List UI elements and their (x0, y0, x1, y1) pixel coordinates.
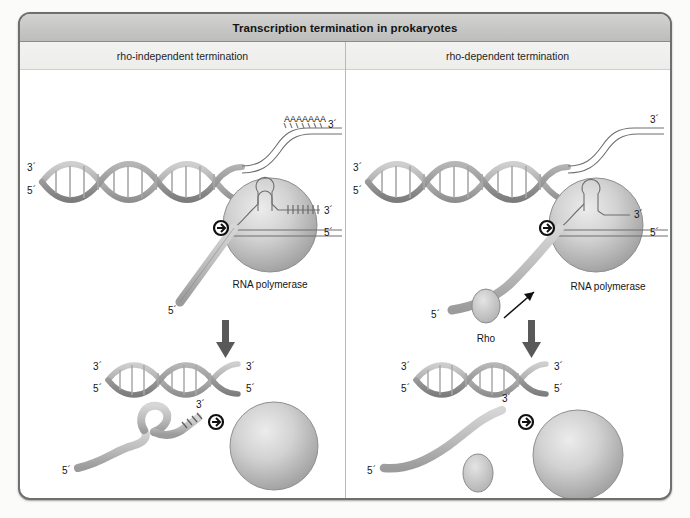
diagram-rho-dependent: 3´ 5´ 3´ (346, 70, 671, 500)
transcription-direction-icon-bottom (209, 415, 223, 429)
dna-duplex-top (42, 164, 242, 201)
hairpin-3prime-label-top-r: 3´ (634, 209, 643, 220)
panel-rho-independent: 3´ 5´ AAAAAAA 3´ (20, 70, 345, 500)
hairpin-3prime-label-top: 3´ (324, 205, 333, 216)
dna-bottom-5prime-right-r: 5´ (554, 383, 563, 394)
rho-translocation-arrow (504, 292, 534, 318)
released-rna-5prime-bottom-r: 5´ (367, 465, 376, 476)
transcription-direction-icon-top-r (540, 221, 554, 235)
dna-top-3prime-left-r: 3´ (353, 162, 362, 173)
diagram-rho-independent: 3´ 5´ AAAAAAA 3´ (20, 70, 345, 500)
dna-bottom-5prime-right: 5´ (246, 383, 255, 394)
panel-heading-rho-independent: rho-independent termination (20, 42, 345, 69)
released-rna-3prime-bottom-r: 3´ (502, 393, 511, 404)
rna-polymerase-label-top: RNA polymerase (232, 279, 307, 290)
dna-bottom-3prime-right-r: 3´ (554, 361, 563, 372)
figure-frame: Transcription termination in prokaryotes… (18, 12, 672, 500)
page-title: Transcription termination in prokaryotes (232, 22, 457, 34)
released-rna-5prime-bottom: 5´ (62, 465, 71, 476)
u-tract-ticks-top (288, 205, 318, 214)
rna-5prime-label-top-r: 5´ (431, 309, 440, 320)
dna-bottom-3prime-left: 3´ (93, 361, 102, 372)
down-arrow-left (216, 320, 235, 358)
figure-title-bar: Transcription termination in prokaryotes (20, 14, 670, 42)
rho-label-bottom: Rho (469, 497, 488, 500)
released-rna-hairpin-bottom (78, 406, 198, 468)
rna-polymerase-label-bottom: RNA polymerase (236, 497, 311, 500)
dna-upper-separated-strand-r (568, 128, 664, 173)
rho-protein-bottom (463, 454, 493, 492)
dna-upper-separated-strand (242, 128, 342, 173)
poly-a-sequence-label: AAAAAAA (284, 114, 326, 124)
rna-polymerase-label-top-r: RNA polymerase (570, 281, 645, 292)
rna-polymerase-sphere-bottom-r (533, 410, 623, 500)
dna-duplex-bottom-r (416, 364, 546, 395)
dna-bottom-5prime-left: 5´ (93, 383, 102, 394)
rna-5prime-label-top: 5´ (168, 305, 177, 316)
nascent-rna-strand-top-r (452, 228, 560, 310)
template-5prime-label-top-r: 5´ (650, 227, 659, 238)
rna-polymerase-sphere-bottom (230, 402, 318, 490)
panel-rho-dependent: 3´ 5´ 3´ (346, 70, 671, 500)
dna-duplex-bottom (108, 364, 238, 395)
dna-top-3prime-left: 3´ (27, 162, 36, 173)
dna-top-5prime-left-r: 5´ (353, 185, 362, 196)
dna-bottom-5prime-left-r: 5´ (401, 383, 410, 394)
panel-heading-rho-dependent: rho-dependent termination (345, 42, 670, 69)
down-arrow-right (522, 320, 541, 358)
rho-protein-top (472, 289, 500, 323)
rna-upper-3prime-label-r: 3´ (650, 114, 659, 125)
dna-duplex-top-r (368, 164, 568, 201)
rna-polymerase-label-bottom-r: RNA polymerase (540, 497, 615, 500)
transcription-direction-icon-top (214, 221, 228, 235)
template-5prime-label-top: 5´ (324, 227, 333, 238)
figure-root: Transcription termination in prokaryotes… (0, 0, 690, 518)
rho-label-top: Rho (477, 333, 496, 344)
released-rna-3prime-bottom: 3´ (196, 399, 205, 410)
dna-bottom-3prime-left-r: 3´ (401, 361, 410, 372)
dna-top-5prime-left: 5´ (27, 185, 36, 196)
transcription-direction-icon-bottom-r (519, 415, 533, 429)
nascent-rna-outline-top (180, 228, 234, 302)
rna-upper-3prime-label: 3´ (328, 119, 337, 130)
dna-bottom-3prime-right: 3´ (246, 361, 255, 372)
